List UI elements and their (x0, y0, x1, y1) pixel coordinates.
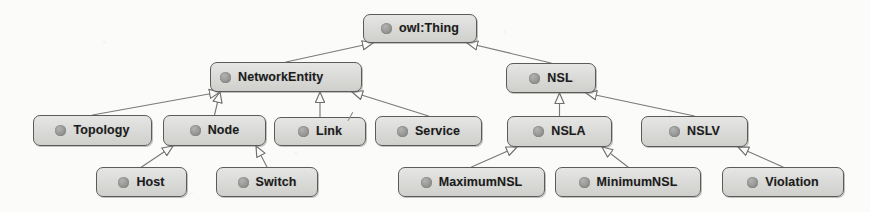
class-bullet-icon (298, 126, 309, 137)
class-bullet-icon (579, 177, 590, 188)
class-bullet-icon (55, 125, 66, 136)
class-node-label: Topology (73, 124, 129, 137)
edge-violation-to-nslv (738, 147, 783, 167)
edge-nslv-to-nsl (586, 93, 695, 116)
generalization-edges (93, 43, 784, 167)
edge-networkentity-to-owlthing (286, 43, 373, 62)
class-bullet-icon (421, 177, 432, 188)
class-node-label: NetworkEntity (238, 71, 323, 84)
edge-topology-to-networkentity (93, 92, 221, 115)
class-hierarchy-diagram: owl:ThingNetworkEntityNSLTopologyNodeLin… (0, 0, 870, 212)
class-node-switch[interactable]: Switch (216, 167, 318, 197)
class-bullet-icon (190, 125, 201, 136)
class-node-label: owl:Thing (399, 22, 459, 35)
edge-nsl-to-owlthing (467, 43, 551, 63)
class-node-link[interactable]: Link (274, 117, 366, 146)
class-node-label: Link (316, 125, 342, 138)
edge-switch-to-node (256, 146, 267, 167)
class-node-service[interactable]: Service (375, 116, 482, 146)
class-bullet-icon (747, 177, 758, 188)
class-node-nsl[interactable]: NSL (506, 63, 596, 93)
class-node-host[interactable]: Host (96, 167, 187, 197)
edge-minimumnsl-to-nsla (602, 147, 628, 167)
edge-service-to-networkentity (352, 92, 429, 116)
class-node-violation[interactable]: Violation (722, 167, 844, 197)
class-bullet-icon (529, 73, 540, 84)
class-node-label: Node (208, 124, 240, 137)
class-node-label: NSL (547, 72, 572, 85)
class-node-topology[interactable]: Topology (33, 115, 152, 146)
class-bullet-icon (238, 177, 249, 188)
class-node-label: Switch (256, 176, 297, 189)
scan-artifact-speck (347, 112, 354, 121)
edge-node-to-networkentity (215, 92, 221, 115)
class-node-label: Violation (765, 176, 818, 189)
edge-host-to-node (142, 146, 174, 167)
class-bullet-icon (118, 177, 129, 188)
class-bullet-icon (669, 126, 680, 137)
class-node-label: Host (136, 176, 164, 189)
class-node-networkentity[interactable]: NetworkEntity (210, 62, 362, 92)
class-node-node[interactable]: Node (163, 115, 266, 146)
class-node-label: NSLA (551, 125, 585, 138)
class-node-owlthing[interactable]: owl:Thing (363, 14, 477, 43)
class-bullet-icon (381, 23, 392, 34)
class-node-label: MinimumNSL (597, 176, 678, 189)
class-node-label: Service (415, 125, 460, 138)
class-node-label: MaximumNSL (439, 176, 523, 189)
edge-maximumnsl-to-nsla (472, 147, 518, 167)
class-node-label: NSLV (687, 125, 720, 138)
class-node-nslv[interactable]: NSLV (641, 116, 748, 147)
class-bullet-icon (533, 126, 544, 137)
class-node-maximumnsl[interactable]: MaximumNSL (398, 167, 545, 197)
class-bullet-icon (397, 126, 408, 137)
class-node-minimumnsl[interactable]: MinimumNSL (555, 167, 701, 197)
class-node-nsla[interactable]: NSLA (507, 116, 612, 147)
class-bullet-icon (220, 72, 231, 83)
